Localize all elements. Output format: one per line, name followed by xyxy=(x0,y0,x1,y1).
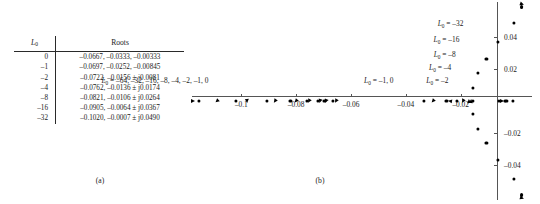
cell-roots: –0.0667, –0.0333, –0.00333 xyxy=(56,52,185,63)
table-row: –32–0.1020, –0.0007 ± j0.0490 xyxy=(14,113,184,123)
direction-arrow-icon xyxy=(469,99,473,103)
x-axis-tick-label: –0.04 xyxy=(398,100,415,109)
cell-roots: –0.1020, –0.0007 ± j0.0490 xyxy=(56,113,185,123)
y-axis-tick xyxy=(494,165,497,166)
data-point xyxy=(496,41,499,44)
annotation-label: L0 = –1, 0 xyxy=(364,76,393,85)
y-axis-tick-label: –0.02 xyxy=(504,128,521,137)
x-axis-tick xyxy=(241,94,242,97)
cell-l0: –2 xyxy=(14,73,56,83)
real-axis xyxy=(192,96,532,97)
x-axis-tick xyxy=(296,94,297,97)
annotation-label: L0 = –32 xyxy=(438,20,464,29)
table-header-row: L0 Roots xyxy=(14,36,184,52)
direction-arrow-icon xyxy=(272,98,278,104)
data-point xyxy=(477,72,480,75)
y-axis-tick xyxy=(494,133,497,134)
cell-roots: –0.0697, –0.0252, –0.00845 xyxy=(56,62,185,72)
data-point xyxy=(512,99,515,102)
data-point xyxy=(512,178,515,181)
y-axis-tick-label: –0.04 xyxy=(504,160,521,169)
data-point xyxy=(485,142,488,145)
x-axis-tick xyxy=(351,94,352,97)
data-point xyxy=(471,87,474,90)
data-point xyxy=(512,21,515,24)
cell-l0: –8 xyxy=(14,93,56,103)
cell-l0: –4 xyxy=(14,83,56,93)
annotation-label: L0 = –64, –32, –16, –8, –4, –2, –1, 0 xyxy=(101,76,208,85)
figure-container: L0 Roots 0–0.0667, –0.0333, –0.00333–1–0… xyxy=(0,0,540,204)
annotation-label: L0 = –16 xyxy=(434,35,460,44)
direction-arrow-icon xyxy=(318,98,323,103)
y-axis-tick-label: 0.02 xyxy=(504,65,517,74)
l0-subscript: 0 xyxy=(35,41,38,47)
panel-b-caption: (b) xyxy=(300,176,340,185)
cell-roots: –0.0905, –0.0064 ± j0.0367 xyxy=(56,103,185,113)
x-axis-tick-label: –0.06 xyxy=(343,100,360,109)
table-head: L0 Roots xyxy=(14,36,184,52)
data-point xyxy=(496,158,499,161)
data-point xyxy=(197,99,200,102)
y-axis-tick-label: 0.04 xyxy=(504,33,517,42)
data-point xyxy=(477,127,480,130)
direction-arrow-icon xyxy=(324,98,329,103)
data-point xyxy=(266,99,269,102)
cell-l0: –32 xyxy=(14,113,56,123)
panel-b-plot: –0.1–0.08–0.06–0.04–0.020.040.02–0.02–0.… xyxy=(186,0,540,204)
x-axis-tick xyxy=(406,94,407,97)
direction-arrow-icon xyxy=(500,99,504,103)
direction-arrow-icon xyxy=(306,98,311,103)
data-point xyxy=(423,99,426,102)
cell-l0: –16 xyxy=(14,103,56,113)
annotation-label: L0 = –4 xyxy=(429,64,451,73)
cell-l0: 0 xyxy=(14,52,56,63)
direction-arrow-icon xyxy=(191,99,195,103)
direction-arrow-icon xyxy=(519,195,524,200)
direction-arrow-icon xyxy=(333,98,338,103)
direction-arrow-icon xyxy=(214,98,220,104)
data-point xyxy=(505,99,508,102)
data-point xyxy=(471,112,474,115)
table-row: –1–0.0697, –0.0252, –0.00845 xyxy=(14,62,184,72)
table-row: 0–0.0667, –0.0333, –0.00333 xyxy=(14,52,184,63)
annotation-label: L0 = –8 xyxy=(434,50,456,59)
panel-a-caption: (a) xyxy=(80,176,120,185)
table-row: –16–0.0905, –0.0064 ± j0.0367 xyxy=(14,103,184,113)
direction-arrow-icon xyxy=(430,98,436,104)
direction-arrow-icon xyxy=(447,99,452,104)
column-header-l0: L0 xyxy=(14,36,56,52)
direction-arrow-icon xyxy=(245,99,249,103)
y-axis-tick xyxy=(494,69,497,70)
cell-l0: –1 xyxy=(14,62,56,72)
annotation-label: L0 = –2 xyxy=(426,76,448,85)
y-axis-tick xyxy=(494,37,497,38)
cell-roots: –0.0821, –0.0106 ± j0.0264 xyxy=(56,93,185,103)
table-body: 0–0.0667, –0.0333, –0.00333–1–0.0697, –0… xyxy=(14,52,184,124)
table-row: –8–0.0821, –0.0106 ± j0.0264 xyxy=(14,93,184,103)
x-axis-tick xyxy=(461,94,462,97)
data-point xyxy=(485,57,488,60)
column-header-roots: Roots xyxy=(56,36,185,52)
